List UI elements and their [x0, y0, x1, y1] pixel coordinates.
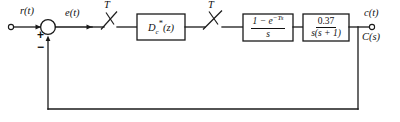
- controller-subscript: c: [156, 28, 159, 36]
- plant-block-label: 0.37 s(s + 1): [303, 14, 349, 41]
- arrowhead-feedback: [46, 35, 51, 41]
- controller-expression: Dc*(z): [148, 18, 174, 36]
- sampler2-blade: [203, 11, 222, 30]
- zoh-numerator-base: 1 − e: [253, 17, 273, 27]
- zoh-fraction: 1 − e−Ts s: [251, 15, 286, 39]
- sampler2-period-label: T: [208, 0, 214, 11]
- zoh-numerator-exponent: −Ts: [273, 14, 284, 22]
- sampler1-blade: [101, 12, 117, 30]
- zoh-block-label: 1 − e−Ts s: [243, 14, 293, 41]
- output-signal-laplace-label: C(s): [362, 32, 380, 43]
- error-signal-label: e(t): [65, 8, 80, 19]
- zoh-numerator: 1 − e−Ts: [251, 15, 286, 29]
- output-signal-time-label: c(t): [364, 8, 379, 19]
- input-terminal-node: [8, 24, 13, 29]
- input-signal-label: r(t): [20, 6, 34, 17]
- sampler1-period-label: T: [104, 0, 110, 11]
- zoh-denominator: s: [264, 29, 272, 39]
- block-diagram-canvas: r(t) + − e(t) T T Dc*(z) 1 − e−Ts s 0.37…: [0, 0, 400, 122]
- controller-block-label: Dc*(z): [137, 14, 185, 40]
- plant-denominator: s(s + 1): [309, 28, 343, 38]
- plant-fraction: 0.37 s(s + 1): [309, 17, 343, 39]
- plant-numerator: 0.37: [316, 17, 337, 28]
- sum-negative-sign: −: [37, 41, 44, 53]
- output-terminal-node: [369, 24, 374, 29]
- controller-argument: (z): [163, 22, 174, 33]
- arrowhead-error: [87, 25, 93, 30]
